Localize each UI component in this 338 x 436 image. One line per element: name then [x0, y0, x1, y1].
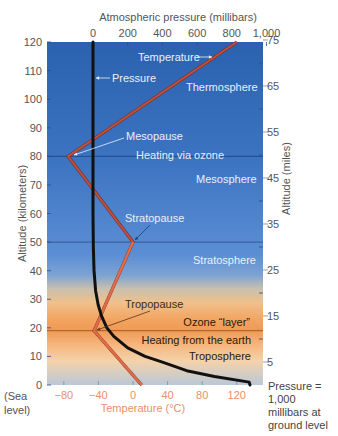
mesosphere-label: Mesosphere [196, 173, 257, 185]
top-tick-label: 400 [153, 27, 171, 39]
chart-canvas: 0102030405060708090100110120Altitude (ki… [0, 0, 338, 436]
bottom-tick-label: 0 [130, 389, 136, 401]
left-tick-label: 80 [30, 150, 42, 162]
left-tick-label: 50 [30, 236, 42, 248]
bottom-axis-title: Temperature (°C) [101, 402, 185, 414]
bottom-tick-label: −40 [89, 389, 108, 401]
bottom-tick-label: 120 [228, 389, 246, 401]
bottom-tick-label: 40 [161, 389, 173, 401]
right-tick-label: 25 [267, 264, 279, 276]
right-tick-label: 55 [267, 126, 279, 138]
left-tick-label: 60 [30, 208, 42, 220]
left-tick-label: 10 [30, 350, 42, 362]
stratopause-label: Stratopause [125, 212, 184, 224]
sea-level-label: level) [4, 404, 30, 416]
heating-from-earth-label: Heating from the earth [142, 334, 251, 346]
pressure-label: Pressure [112, 72, 156, 84]
right-axis-title: Altitude (miles) [280, 142, 292, 215]
pressure-note: millibars at [268, 406, 321, 418]
mesopause-label: Mesopause [126, 130, 183, 142]
left-tick-label: 70 [30, 179, 42, 191]
top-tick-label: 1,000 [253, 27, 281, 39]
top-axis-title: Atmospheric pressure (millibars) [99, 11, 257, 23]
ozone-layer-label: Ozone “layer” [183, 316, 250, 328]
left-tick-label: 30 [30, 293, 42, 305]
stratosphere-label: Stratosphere [193, 254, 256, 266]
bottom-tick-label: 80 [196, 389, 208, 401]
left-tick-label: 40 [30, 265, 42, 277]
top-tick-label: 200 [119, 27, 137, 39]
top-tick-label: 800 [223, 27, 241, 39]
left-tick-label: 100 [24, 93, 42, 105]
left-axis-title: Altitude (kilometers) [16, 165, 28, 262]
top-tick-label: 0 [90, 27, 96, 39]
sea-level-label: (Sea [4, 390, 28, 402]
thermosphere-label: Thermosphere [186, 81, 258, 93]
heating-via-ozone-label: Heating via ozone [136, 149, 224, 161]
right-tick-label: 35 [267, 218, 279, 230]
pressure-note: ground level [268, 419, 328, 431]
temperature-label: Temperature [138, 51, 200, 63]
pressure-note: Pressure = [268, 380, 322, 392]
atmosphere-chart: 0102030405060708090100110120Altitude (ki… [0, 0, 338, 436]
left-tick-label: 120 [24, 36, 42, 48]
troposphere-label: Troposphere [189, 350, 251, 362]
left-tick-label: 90 [30, 122, 42, 134]
right-tick-label: 45 [267, 172, 279, 184]
right-tick-label: 15 [267, 310, 279, 322]
top-tick-label: 600 [188, 27, 206, 39]
left-tick-label: 110 [24, 65, 42, 77]
left-tick-label: 0 [36, 379, 42, 391]
right-tick-label: 65 [267, 80, 279, 92]
bottom-tick-label: −80 [54, 389, 73, 401]
tropopause-label: Tropopause [125, 298, 183, 310]
right-tick-label: 5 [267, 356, 273, 368]
left-tick-label: 20 [30, 322, 42, 334]
pressure-note: 1,000 [268, 393, 296, 405]
